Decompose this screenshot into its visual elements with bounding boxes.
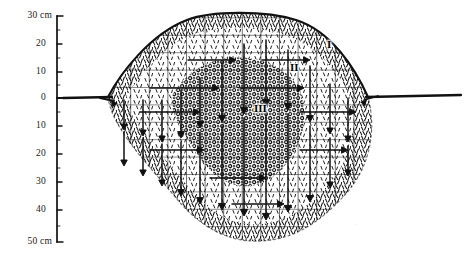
axis-tick-label-0: 0 — [0, 92, 46, 102]
zone-label-three: III — [254, 102, 267, 114]
axis-tick-label-20: 20 — [0, 38, 46, 48]
axis-tick-label-20-below: 20 — [0, 148, 46, 158]
axis-tick-label-10-below: 10 — [0, 120, 46, 130]
zone-label-two: II — [290, 61, 299, 73]
axis-tick-label-30cm: 30 cm — [0, 10, 52, 20]
depth-axis — [57, 16, 64, 242]
figure-canvas — [0, 0, 475, 265]
axis-tick-label-50cm: 50 cm — [0, 236, 52, 246]
axis-tick-label-40-below: 40 — [0, 204, 46, 214]
zone-label-one: I — [327, 38, 331, 50]
axis-tick-label-30-below: 30 — [0, 176, 46, 186]
axis-tick-label-10: 10 — [0, 66, 46, 76]
soil-profile-figure: 30 cm 20 10 0 10 20 30 40 50 cm I II III — [0, 0, 475, 265]
